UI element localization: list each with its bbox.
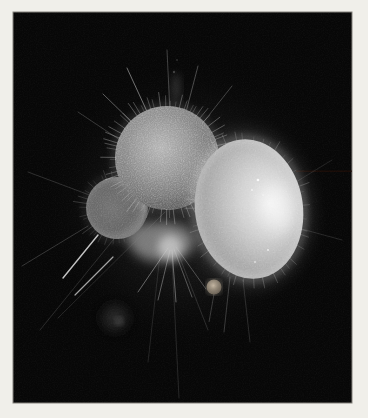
film-grain-overlay <box>13 12 352 403</box>
micrograph-screenshot <box>0 0 368 418</box>
photo-content <box>13 12 352 403</box>
micrograph-image <box>0 0 368 418</box>
